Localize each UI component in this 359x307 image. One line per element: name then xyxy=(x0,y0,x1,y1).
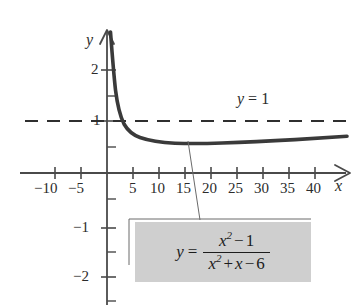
y-tick-label--1: −1 xyxy=(73,220,89,235)
x-tick-label-35: 35 xyxy=(280,181,295,196)
function-curve xyxy=(111,32,348,144)
numerator-base: x xyxy=(219,231,227,250)
equation-expression: y = x2−1 x2+x−6 xyxy=(176,231,269,272)
equation-equals-sign: = xyxy=(188,242,198,262)
denominator-operator-1: + xyxy=(221,254,235,273)
y-tick-label-1: 1 xyxy=(93,113,101,128)
denominator-variable: x xyxy=(235,254,243,273)
x-tick-label--5: −5 xyxy=(68,181,84,196)
x-tick-label-30: 30 xyxy=(254,181,269,196)
numerator-constant: 1 xyxy=(246,231,255,250)
x-tick-label-15: 15 xyxy=(176,181,191,196)
equation-fraction: x2−1 x2+x−6 xyxy=(203,231,269,272)
asymptote-label-rest: = 1 xyxy=(244,90,269,107)
equation-callout: y = x2−1 x2+x−6 xyxy=(135,222,311,282)
denominator-base: x xyxy=(208,254,216,273)
graph-figure: y x −10 −5 5 10 15 20 25 30 35 40 2 1 −1… xyxy=(0,0,359,307)
numerator-operator: − xyxy=(232,231,246,250)
x-tick-label--10: −10 xyxy=(34,181,57,196)
asymptote-label: y = 1 xyxy=(237,91,269,107)
x-tick-label-5: 5 xyxy=(129,181,137,196)
y-axis-minor-ticks xyxy=(107,96,116,301)
y-axis-label: y xyxy=(86,32,93,48)
equation-denominator: x2+x−6 xyxy=(203,252,269,273)
x-tick-label-25: 25 xyxy=(228,181,243,196)
denominator-constant: 6 xyxy=(256,254,265,273)
equation-numerator: x2−1 xyxy=(214,231,259,251)
y-tick-label-2: 2 xyxy=(91,62,99,77)
equation-lhs: y xyxy=(176,242,184,262)
x-axis-label: x xyxy=(335,178,342,194)
x-axis xyxy=(20,165,350,181)
y-tick-label--2: −2 xyxy=(73,269,89,284)
denominator-operator-2: − xyxy=(243,254,257,273)
x-tick-label-40: 40 xyxy=(306,181,321,196)
x-tick-label-20: 20 xyxy=(202,181,217,196)
x-tick-label-10: 10 xyxy=(150,181,165,196)
